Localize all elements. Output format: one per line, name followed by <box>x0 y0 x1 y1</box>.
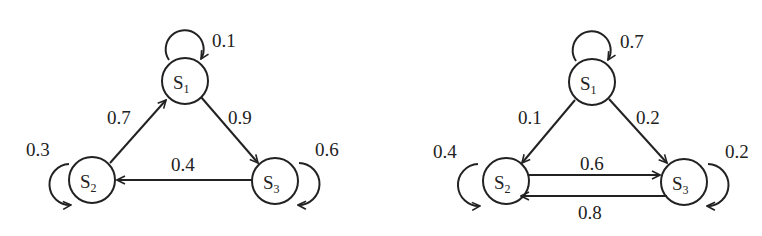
state-label-s2-right: S2 <box>494 172 511 196</box>
prob-s1-s2-right: 0.1 <box>518 107 542 128</box>
prob-s3-s3-right: 0.2 <box>725 141 749 162</box>
state-s2-left <box>69 157 115 203</box>
labels-left: S1 S2 S3 0.1 0.7 0.9 0.4 0.3 0.6 <box>26 30 339 196</box>
state-s1-right <box>569 59 615 105</box>
state-label-s1-right: S1 <box>580 73 597 97</box>
state-s2-right <box>483 158 529 204</box>
prob-s1-s1-left: 0.1 <box>212 30 236 51</box>
prob-s1-s3-right: 0.2 <box>636 107 660 128</box>
prob-s2-s1-left: 0.7 <box>107 107 131 128</box>
state-s3-right <box>661 159 707 205</box>
state-label-s3-right: S3 <box>672 173 689 197</box>
prob-s3-s3-left: 0.6 <box>315 139 339 160</box>
prob-s1-s3-left: 0.9 <box>228 107 252 128</box>
prob-s1-s1-right: 0.7 <box>620 31 644 52</box>
prob-s3-s2-left: 0.4 <box>171 154 195 175</box>
prob-s2-s3-right: 0.6 <box>580 153 604 174</box>
state-s3-left <box>252 158 298 204</box>
selfloop-s3-right <box>707 164 729 206</box>
state-label-s2-left: S2 <box>80 171 97 195</box>
selfloop-s2-right <box>458 164 480 206</box>
selfloop-s3-left <box>298 163 320 205</box>
prob-s2-s2-right: 0.4 <box>433 141 457 162</box>
state-label-s1-left: S1 <box>173 72 190 96</box>
markov-diagrams: S1 S2 S3 0.1 0.7 0.9 0.4 0.3 0.6 S1 S2 S… <box>0 0 762 236</box>
state-label-s3-left: S3 <box>263 172 280 196</box>
prob-s3-s2-right: 0.8 <box>578 202 602 223</box>
prob-s2-s2-left: 0.3 <box>26 139 50 160</box>
selfloop-s1-left <box>166 30 204 60</box>
selfloop-s1-right <box>573 31 611 61</box>
selfloop-s2-left <box>49 164 71 205</box>
